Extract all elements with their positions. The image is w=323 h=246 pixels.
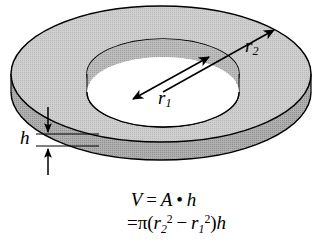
volume-formula-block: V = A • h =π(r22 − r12)h — [0, 188, 323, 237]
thickness-label: h — [20, 128, 30, 147]
formula-volume-symbol: V — [131, 189, 143, 210]
inner-radius-label: r1 — [158, 88, 171, 110]
formula-line-pi-r2-squared-minus-r1-squared-h: =π(r22 − r12)h — [0, 211, 323, 237]
formula-pi-symbol: π — [138, 212, 148, 233]
formula-height-symbol-1: h — [187, 189, 197, 210]
formula-equals-sign-1: = — [146, 189, 157, 210]
washer-volume-figure: r2 r1 h V = A • h =π(r22 − r12)h — [0, 0, 323, 246]
formula-height-symbol-2: h — [217, 212, 227, 233]
formula-multiplication-dot: • — [176, 189, 183, 210]
formula-outer-radius-symbol: r — [154, 212, 161, 233]
formula-area-symbol: A — [161, 189, 173, 210]
outer-radius-label: r2 — [245, 36, 258, 58]
outer-radius-subscript: 2 — [252, 44, 258, 58]
thickness-symbol: h — [20, 127, 30, 148]
formula-line-volume-equals-area-times-height: V = A • h — [0, 188, 323, 211]
formula-equals-sign-2: = — [127, 212, 138, 233]
formula-minus-sign: − — [177, 212, 188, 233]
inner-radius-subscript: 1 — [165, 96, 171, 110]
